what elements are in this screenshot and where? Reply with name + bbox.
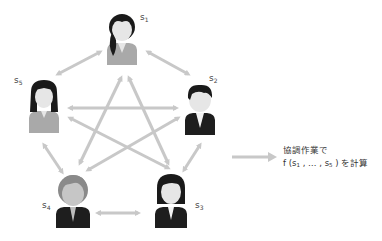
arrow-s2-s4 xyxy=(88,118,178,170)
label-s4: s4 xyxy=(42,201,51,211)
label-s5: s5 xyxy=(14,76,23,86)
label-s3: s3 xyxy=(195,201,204,211)
caption-line-2: f (s1 , … , s5 ) を計算 xyxy=(283,157,368,172)
computation-caption: 協調作業で f (s1 , … , s5 ) を計算 xyxy=(283,144,368,172)
collaboration-diagram xyxy=(0,0,382,241)
arrow-s2-s3 xyxy=(184,145,200,170)
caption-line-1: 協調作業で xyxy=(283,144,368,157)
label-s2: s2 xyxy=(209,74,218,84)
arrow-s5-s4 xyxy=(44,145,62,172)
arrow-s1-s4 xyxy=(80,78,121,163)
label-s1: s1 xyxy=(140,13,149,23)
arrow-s1-s2 xyxy=(148,52,188,74)
person-s3-icon xyxy=(155,174,187,228)
person-s5-icon xyxy=(29,80,59,133)
output-arrow xyxy=(232,152,277,162)
arrow-s5-s3 xyxy=(70,118,168,168)
person-s1-icon xyxy=(107,14,137,65)
arrow-s1-s5 xyxy=(58,52,100,74)
person-s2-icon xyxy=(185,85,215,135)
person-s4-icon xyxy=(56,175,90,228)
